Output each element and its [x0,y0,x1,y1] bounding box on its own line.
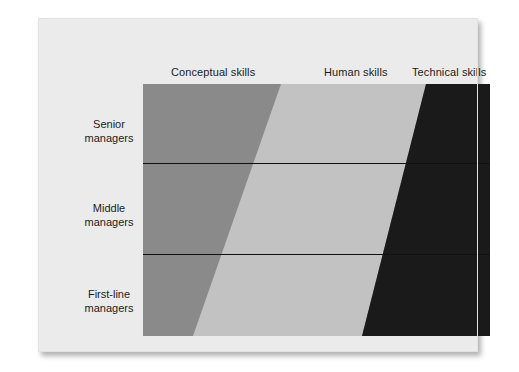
figure-card: Conceptual skills Human skills Technical… [38,18,478,352]
row-label-line-2: managers [76,301,142,315]
row-label-line-1: Middle [76,201,142,215]
row-label-line-2: managers [76,131,142,145]
row-divider-senior-middle [143,163,490,164]
column-header-technical-skills: Technical skills [412,66,486,78]
row-label-senior-managers: Senior managers [76,117,142,145]
column-header-human-skills: Human skills [324,66,388,78]
row-label-middle-managers: Middle managers [76,201,142,229]
row-divider-middle-firstline [143,254,490,255]
row-label-line-1: Senior [76,117,142,131]
skills-chart-plot-area [143,84,490,336]
row-label-line-1: First-line [76,287,142,301]
column-header-conceptual-skills: Conceptual skills [171,66,255,78]
row-label-line-2: managers [76,215,142,229]
row-label-first-line-managers: First-line managers [76,287,142,315]
skills-chart-svg [143,84,490,336]
